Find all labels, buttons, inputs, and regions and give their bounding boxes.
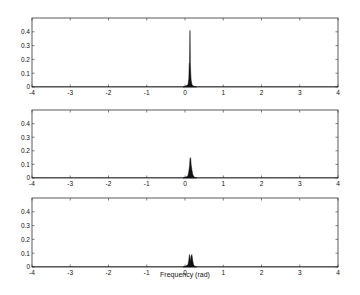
x-tick-label: 3 <box>298 180 302 187</box>
y-tick-label: 0.1 <box>21 161 30 168</box>
spectrum-peak <box>183 158 196 178</box>
y-tick-label: 0.2 <box>21 147 30 154</box>
middle-spectrum-panel: -4-3-2-10123400.10.20.30.4 <box>21 110 340 187</box>
top-spectrum-panel: -4-3-2-10123400.10.20.30.4 <box>21 18 340 96</box>
y-tick-label: 0.3 <box>21 134 30 141</box>
x-tick-label: -2 <box>106 89 112 96</box>
axes-frame <box>32 110 338 178</box>
x-tick-label: 2 <box>260 180 264 187</box>
x-axis-label: Frequency (rad) <box>0 271 360 278</box>
y-tick-label: 0 <box>26 263 30 270</box>
axes-frame <box>32 18 338 87</box>
x-tick-label: 3 <box>298 89 302 96</box>
y-tick-label: 0.4 <box>21 208 30 215</box>
x-tick-label: 1 <box>221 180 225 187</box>
x-tick-label: -3 <box>67 89 73 96</box>
y-tick-label: 0.4 <box>21 120 30 127</box>
spectrum-peak <box>183 30 196 87</box>
y-tick-label: 0.2 <box>21 56 30 63</box>
x-tick-label: 0 <box>183 180 187 187</box>
x-tick-label: -1 <box>144 180 150 187</box>
x-tick-label: 1 <box>221 89 225 96</box>
bottom-spectrum-panel: -4-3-2-10123400.10.20.30.4 <box>21 198 340 276</box>
y-tick-label: 0.1 <box>21 250 30 257</box>
y-tick-label: 0.4 <box>21 28 30 35</box>
spectrum-figure: -4-3-2-10123400.10.20.30.4 -4-3-2-101234… <box>0 0 360 295</box>
y-tick-label: 0.3 <box>21 222 30 229</box>
x-tick-label: -4 <box>29 89 35 96</box>
x-tick-label: -3 <box>67 180 73 187</box>
axes-frame <box>32 198 338 267</box>
x-tick-label: -1 <box>144 89 150 96</box>
x-tick-label: -4 <box>29 180 35 187</box>
x-tick-label: 0 <box>183 89 187 96</box>
x-tick-label: 2 <box>260 89 264 96</box>
x-tick-label: 4 <box>336 180 340 187</box>
y-tick-label: 0.1 <box>21 70 30 77</box>
x-tick-label: 4 <box>336 89 340 96</box>
y-tick-label: 0.2 <box>21 236 30 243</box>
y-tick-label: 0.3 <box>21 42 30 49</box>
y-tick-label: 0 <box>26 83 30 90</box>
y-tick-label: 0 <box>26 174 30 181</box>
x-tick-label: -2 <box>106 180 112 187</box>
